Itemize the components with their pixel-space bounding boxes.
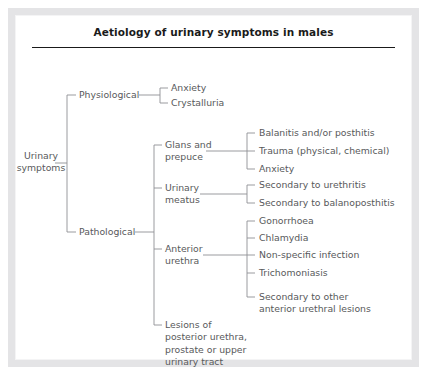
node-secondary-balanoposthitis: Secondary to balanoposthitis [259,197,395,209]
node-anxiety-glans: Anxiety [259,163,294,175]
node-gonorrhoea: Gonorrhoea [259,215,314,227]
node-urinary-symptoms: Urinary symptoms [12,150,70,175]
node-secondary-other-anterior: Secondary to other anterior urethral les… [259,291,399,316]
figure-canvas: Aetiology of urinary symptoms in males [0,0,427,375]
node-anterior-urethra: Anterior urethra [165,243,203,268]
node-anxiety-physiological: Anxiety [171,82,206,94]
node-glans-and-prepuce: Glans and prepuce [165,139,212,164]
node-trauma: Trauma (physical, chemical) [259,145,389,157]
node-non-specific-infection: Non-specific infection [259,249,359,261]
node-crystalluria: Crystalluria [171,97,224,109]
node-secondary-urethritis: Secondary to urethritis [259,179,366,191]
figure-title: Aetiology of urinary symptoms in males [24,26,403,39]
node-lesions-posterior-urethra: Lesions of posterior urethra, prostate o… [165,319,260,369]
node-urinary-meatus: Urinary meatus [165,182,200,207]
node-pathological: Pathological [79,226,135,238]
node-chlamydia: Chlamydia [259,232,308,244]
title-divider [32,47,395,48]
node-physiological: Physiological [79,89,139,101]
node-balanitis-posthitis: Balanitis and/or posthitis [259,127,375,139]
node-trichomoniasis: Trichomoniasis [259,267,328,279]
